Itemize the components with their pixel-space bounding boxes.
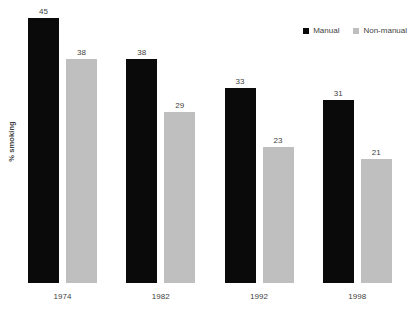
- bar-value-label: 21: [361, 148, 392, 157]
- bar-manual-1992[interactable]: [225, 88, 256, 283]
- x-tick-label-1992: 1992: [225, 292, 294, 301]
- bar-value-label: 38: [66, 48, 97, 57]
- bar-value-label: 29: [164, 101, 195, 110]
- x-tick-label-1974: 1974: [28, 292, 97, 301]
- plot-area: 4538382933233121: [22, 0, 415, 283]
- x-tick-label-1998: 1998: [323, 292, 392, 301]
- bar-manual-1974[interactable]: [28, 18, 59, 283]
- bar-chart: % smoking Manual Non-manual 453838293323…: [0, 0, 415, 312]
- bar-non-manual-1992[interactable]: [263, 147, 294, 283]
- bar-non-manual-1998[interactable]: [361, 159, 392, 283]
- bar-group: 3829: [126, 0, 195, 283]
- bar-value-label: 38: [126, 48, 157, 57]
- bar-non-manual-1974[interactable]: [66, 59, 97, 283]
- x-tick-label-1982: 1982: [126, 292, 195, 301]
- bar-value-label: 45: [28, 7, 59, 16]
- y-axis-title: % smoking: [0, 0, 22, 283]
- bar-group: 3121: [323, 0, 392, 283]
- bar-value-label: 23: [263, 136, 294, 145]
- bar-manual-1982[interactable]: [126, 59, 157, 283]
- bar-group: 3323: [225, 0, 294, 283]
- y-axis-title-text: % smoking: [7, 121, 16, 162]
- bar-group: 4538: [28, 0, 97, 283]
- bar-manual-1998[interactable]: [323, 100, 354, 283]
- bar-non-manual-1982[interactable]: [164, 112, 195, 283]
- bar-value-label: 31: [323, 89, 354, 98]
- x-axis: 1974198219921998: [22, 287, 415, 312]
- bar-value-label: 33: [225, 77, 256, 86]
